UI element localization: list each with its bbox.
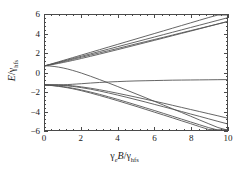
x-major-tick-top [118, 14, 119, 18]
y-minor-tick [44, 127, 46, 128]
x-minor-tick-top [184, 14, 185, 16]
x-major-tick [154, 127, 155, 131]
x-minor-tick [88, 129, 89, 131]
y-major-tick-right [224, 131, 228, 132]
x-minor-tick-top [162, 14, 163, 16]
y-major-tick-right [224, 53, 228, 54]
x-minor-tick [162, 129, 163, 131]
x-minor-tick-top [140, 14, 141, 16]
x-minor-tick [66, 129, 67, 131]
y-minor-tick-right [226, 88, 228, 89]
x-major-tick-top [154, 14, 155, 18]
y-tick-label: −6 [22, 127, 40, 136]
y-minor-tick-right [226, 65, 228, 66]
y-minor-tick [44, 104, 46, 105]
x-minor-tick [140, 129, 141, 131]
x-minor-tick [169, 129, 170, 131]
x-tick-label: 6 [152, 134, 157, 143]
y-axis-label: E/γhfs [6, 41, 19, 101]
x-minor-tick [96, 129, 97, 131]
x-major-tick-top [191, 14, 192, 18]
y-major-tick [44, 73, 48, 74]
y-major-tick [44, 112, 48, 113]
x-minor-tick [132, 129, 133, 131]
y-minor-tick [44, 26, 46, 27]
x-minor-tick-top [176, 14, 177, 16]
y-minor-tick [44, 119, 46, 120]
x-minor-tick-top [96, 14, 97, 16]
y-major-tick-right [224, 34, 228, 35]
x-tick-label: 0 [42, 134, 47, 143]
y-minor-tick [44, 49, 46, 50]
y-minor-tick-right [226, 123, 228, 124]
y-minor-tick [44, 80, 46, 81]
y-major-tick [44, 14, 48, 15]
y-minor-tick-right [226, 104, 228, 105]
x-minor-tick [184, 129, 185, 131]
x-major-tick [191, 127, 192, 131]
y-major-tick [44, 92, 48, 93]
y-minor-tick-right [226, 80, 228, 81]
x-minor-tick-top [103, 14, 104, 16]
x-minor-tick [199, 129, 200, 131]
x-minor-tick-top [125, 14, 126, 16]
x-minor-tick [147, 129, 148, 131]
x-major-tick-top [81, 14, 82, 18]
y-minor-tick-right [226, 115, 228, 116]
y-tick-label: −2 [22, 88, 40, 97]
y-major-tick [44, 131, 48, 132]
y-minor-tick [44, 57, 46, 58]
x-axis-label: γeB/γhfs [0, 150, 249, 163]
x-minor-tick-top [51, 14, 52, 16]
y-minor-tick [44, 108, 46, 109]
y-minor-tick [44, 41, 46, 42]
energy-level-curve [45, 85, 227, 130]
curves-svg [45, 15, 227, 130]
y-minor-tick [44, 100, 46, 101]
y-minor-tick [44, 96, 46, 97]
y-minor-tick [44, 88, 46, 89]
x-minor-tick [125, 129, 126, 131]
y-minor-tick [44, 65, 46, 66]
y-minor-tick-right [226, 30, 228, 31]
x-tick-label: 2 [79, 134, 84, 143]
y-minor-tick [44, 84, 46, 85]
y-minor-tick [44, 22, 46, 23]
y-minor-tick-right [226, 22, 228, 23]
x-minor-tick-top [213, 14, 214, 16]
y-major-tick [44, 34, 48, 35]
x-minor-tick-top [88, 14, 89, 16]
x-minor-tick [221, 129, 222, 131]
y-minor-tick [44, 30, 46, 31]
y-minor-tick-right [226, 61, 228, 62]
energy-level-curve [45, 85, 227, 118]
y-major-tick-right [224, 92, 228, 93]
x-major-tick [81, 127, 82, 131]
y-minor-tick-right [226, 41, 228, 42]
y-minor-tick [44, 45, 46, 46]
x-minor-tick-top [110, 14, 111, 16]
y-major-tick-right [224, 112, 228, 113]
x-minor-tick-top [206, 14, 207, 16]
y-minor-tick-right [226, 26, 228, 27]
y-minor-tick-right [226, 96, 228, 97]
y-minor-tick-right [226, 45, 228, 46]
x-minor-tick-top [147, 14, 148, 16]
y-minor-tick-right [226, 76, 228, 77]
y-minor-tick [44, 61, 46, 62]
energy-level-curve [45, 85, 227, 130]
y-minor-tick [44, 115, 46, 116]
x-minor-tick [206, 129, 207, 131]
y-minor-tick-right [226, 18, 228, 19]
y-minor-tick-right [226, 84, 228, 85]
x-minor-tick-top [221, 14, 222, 16]
x-minor-tick-top [169, 14, 170, 16]
y-minor-tick [44, 18, 46, 19]
x-minor-tick [59, 129, 60, 131]
y-minor-tick-right [226, 37, 228, 38]
x-minor-tick-top [59, 14, 60, 16]
y-tick-label: 6 [22, 10, 40, 19]
energy-level-curve [45, 66, 227, 130]
x-minor-tick-top [66, 14, 67, 16]
energy-level-curve [45, 15, 227, 66]
